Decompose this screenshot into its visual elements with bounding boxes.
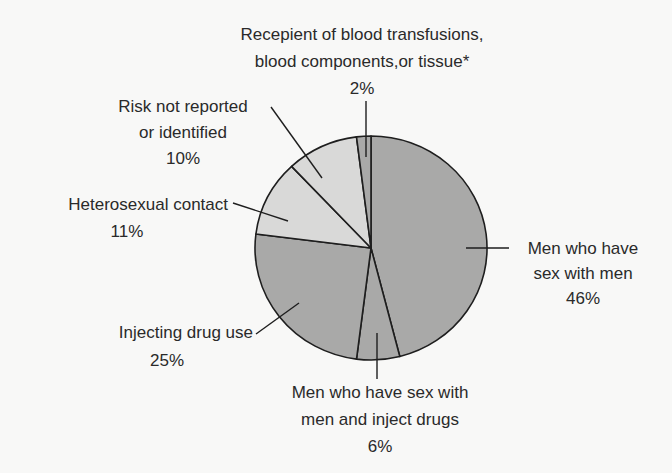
value-label: 10% bbox=[166, 149, 200, 168]
value-label: 6% bbox=[368, 437, 393, 456]
label-msm-and-inject-drugs: Men who have sex with men and inject dru… bbox=[292, 383, 469, 456]
slice-injecting-drug-use bbox=[255, 234, 371, 359]
label-line: Heterosexual contact bbox=[68, 195, 228, 214]
label-line: Injecting drug use bbox=[119, 323, 253, 342]
value-label: 46% bbox=[566, 289, 600, 308]
label-line: Men who have sex with bbox=[292, 383, 469, 402]
label-line: men and inject drugs bbox=[301, 410, 459, 429]
label-risk-not-reported: Risk not reported or identified 10% bbox=[118, 97, 247, 168]
label-line: sex with men bbox=[533, 264, 632, 283]
label-injecting-drug-use: Injecting drug use 25% bbox=[119, 323, 253, 370]
value-label: 11% bbox=[111, 222, 144, 241]
label-blood-recipient: Recepient of blood transfusions, blood c… bbox=[241, 25, 484, 98]
value-label: 25% bbox=[150, 351, 184, 370]
label-heterosexual-contact: Heterosexual contact 11% bbox=[68, 195, 228, 241]
label-line: or identified bbox=[139, 123, 227, 142]
value-label: 2% bbox=[350, 79, 375, 98]
label-line: blood components,or tissue* bbox=[255, 52, 470, 71]
label-line: Risk not reported bbox=[118, 97, 247, 116]
label-men-who-have-sex-with-men: Men who have sex with men 46% bbox=[528, 239, 639, 308]
label-line: Recepient of blood transfusions, bbox=[241, 25, 484, 44]
pie-chart: Recepient of blood transfusions, blood c… bbox=[0, 0, 672, 473]
label-line: Men who have bbox=[528, 239, 639, 258]
